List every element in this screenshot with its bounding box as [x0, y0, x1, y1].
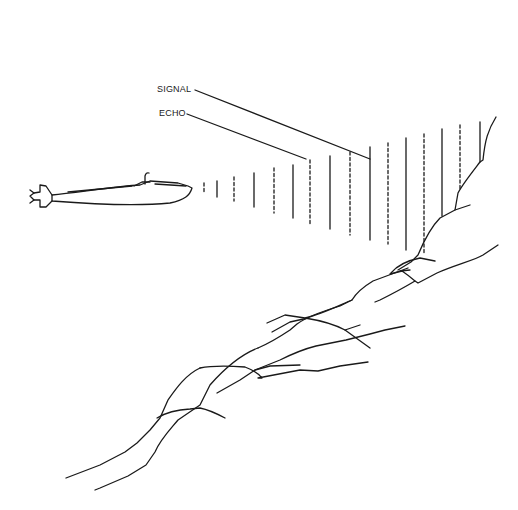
cliff-ledge-1	[455, 205, 470, 210]
cliff-ledge-4	[390, 245, 498, 283]
cliff-ledge-8	[157, 408, 225, 418]
submarine-deck	[68, 186, 132, 192]
cliff-face-upper	[398, 117, 496, 270]
cliff-slope-middle	[267, 300, 370, 348]
cliff-ledge-5	[375, 281, 415, 302]
cliff-ledge-6	[217, 326, 405, 393]
sonar-pulses	[204, 122, 480, 253]
cliff-slope-lower	[66, 368, 200, 478]
signal-label: SIGNAL	[157, 84, 191, 94]
underwater-cliff	[66, 117, 498, 490]
submarine-tail-fins	[30, 185, 52, 207]
signal-leader-line	[195, 90, 370, 159]
cliff-slope-middle-2	[95, 348, 258, 490]
echo-leader-line	[187, 114, 306, 159]
submarine	[30, 173, 192, 207]
echo-label: ECHO	[159, 108, 186, 118]
sonar-diagram	[0, 0, 518, 510]
cliff-ledge-2	[391, 258, 435, 273]
